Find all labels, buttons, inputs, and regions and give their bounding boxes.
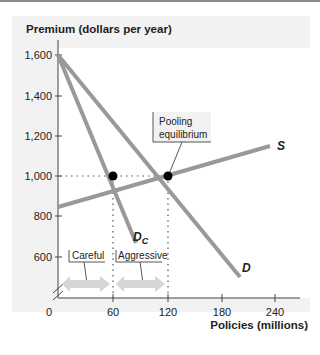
y-tick-label: 1,600	[24, 49, 52, 61]
separating-point	[109, 172, 118, 181]
y-tick-label: 1,400	[24, 90, 52, 102]
y-tick-label: 1,200	[24, 130, 52, 142]
pooling-label-line2: equilibrium	[159, 129, 207, 140]
x-axis-label: Policies (millions)	[210, 319, 308, 331]
careful-label: Careful	[72, 250, 104, 261]
pooling-equilibrium-point	[164, 172, 173, 181]
chart: Premium (dollars per year) 1,600 1,400 1…	[0, 0, 320, 355]
x-tick-label: 60	[107, 306, 119, 318]
y-axis-label: Premium (dollars per year)	[26, 23, 172, 35]
pooling-label-line1: Pooling	[159, 116, 192, 127]
y-tick-label: 600	[34, 251, 52, 263]
x-tick-label: 180	[213, 306, 231, 318]
x-tick-label: 120	[159, 306, 177, 318]
y-tick-label: 1,000	[24, 170, 52, 182]
x-tick-label: 240	[266, 306, 284, 318]
curve-label-D: D	[242, 261, 251, 275]
y-tick-label: 800	[34, 210, 52, 222]
curve-label-S: S	[277, 139, 285, 153]
aggressive-label: Aggressive	[118, 250, 168, 261]
x-tick-label: 0	[46, 306, 52, 318]
